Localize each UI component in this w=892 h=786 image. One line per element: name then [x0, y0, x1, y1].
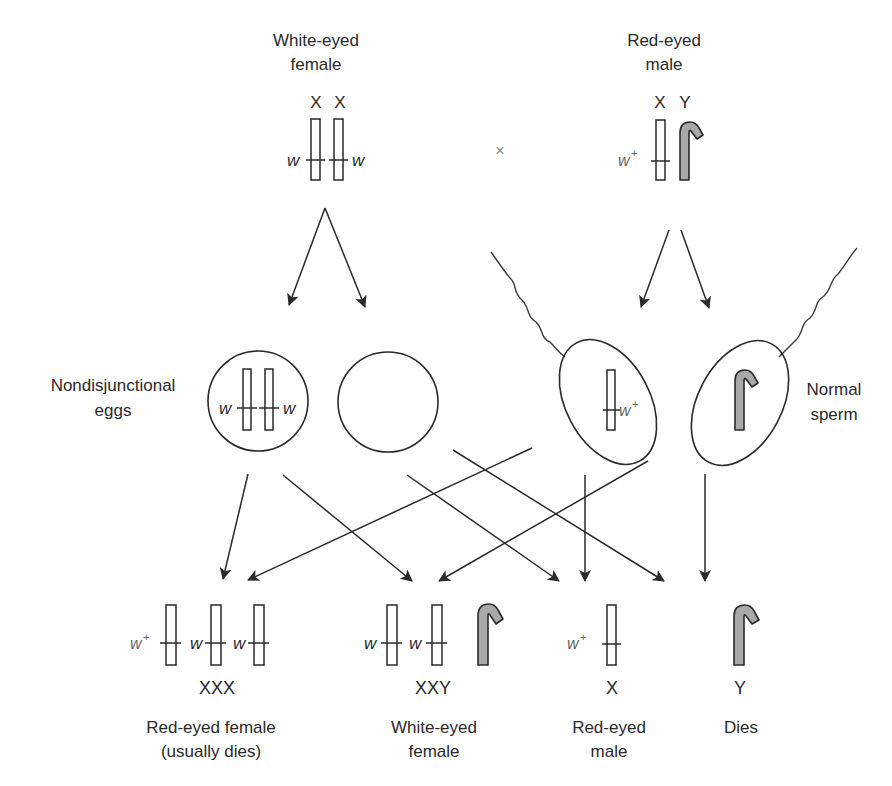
- sperm-allele-base: w: [619, 402, 632, 419]
- sperm-label: Normal sperm: [807, 380, 862, 424]
- karyotype-label: X: [606, 678, 618, 698]
- male-label-line1: Red-eyed: [627, 31, 701, 50]
- egg-allele-1: w: [219, 399, 233, 418]
- male-x-label: X: [654, 93, 665, 112]
- phenotype-line1: Red-eyed female: [146, 718, 275, 737]
- phenotype-line1: Red-eyed: [572, 718, 646, 737]
- meiosis-arrows: [289, 208, 709, 308]
- phenotype-line1: White-eyed: [391, 718, 477, 737]
- phenotype-line2: female: [408, 742, 459, 761]
- karyotype-label: XXY: [415, 678, 451, 698]
- x-chromosome-icon: [602, 605, 621, 665]
- y-chromosome-icon: [478, 604, 503, 665]
- y-chromosome-icon: [734, 605, 759, 665]
- offspring-allele: w: [190, 634, 204, 653]
- offspring-allele: w: [364, 634, 378, 653]
- offspring-x: w + X Red-eyed male: [567, 605, 646, 761]
- male-allele-base: w: [618, 152, 631, 169]
- x-chromosome-icon: [160, 605, 181, 665]
- x-chromosome-icon: [259, 369, 279, 430]
- egg-allele-2: w: [283, 399, 297, 418]
- karyotype-label: Y: [734, 678, 746, 698]
- x-chromosome-icon: [426, 605, 447, 665]
- offspring-allele-sup: +: [580, 631, 586, 643]
- offspring-allele-sup: +: [143, 631, 149, 643]
- eggs-label: Nondisjunctional eggs: [51, 376, 176, 420]
- offspring-allele: w: [409, 634, 423, 653]
- flagellum: [779, 248, 857, 357]
- eggs-label-line1: Nondisjunctional: [51, 376, 176, 395]
- nondisjunctional-egg-empty: [338, 352, 438, 452]
- female-allele-1: w: [287, 151, 301, 170]
- female-label-line1: White-eyed: [273, 31, 359, 50]
- sperm-allele-sup: +: [632, 398, 638, 410]
- y-chromosome-icon: [735, 370, 758, 430]
- x-chromosome-icon: [329, 119, 348, 180]
- x-chromosome-icon: [603, 370, 620, 430]
- x-chromosome-icon: [248, 605, 269, 665]
- nondisjunctional-egg-xx: w w: [208, 351, 308, 451]
- offspring-allele: w: [130, 635, 143, 652]
- diagram-canvas: White-eyed female X X w w × Red-eyed mal…: [0, 0, 892, 786]
- eggs-label-line2: eggs: [95, 401, 132, 420]
- offspring-allele: w: [567, 635, 580, 652]
- phenotype-line2: male: [591, 742, 628, 761]
- phenotype-line2: (usually dies): [161, 742, 261, 761]
- sperm-label-line2: sperm: [810, 405, 857, 424]
- sperm-label-line1: Normal: [807, 380, 862, 399]
- female-allele-2: w: [352, 151, 366, 170]
- cross-symbol: ×: [495, 142, 504, 159]
- offspring-xxy: w w XXY White-eyed female: [364, 604, 503, 761]
- female-x-label-2: X: [334, 93, 345, 112]
- offspring-y: Y Dies: [724, 605, 759, 737]
- offspring-allele: w: [233, 634, 247, 653]
- fertilization-arrows: [223, 448, 705, 581]
- female-label-line2: female: [290, 55, 341, 74]
- karyotype-label: XXX: [199, 678, 235, 698]
- x-chromosome-icon: [205, 605, 226, 665]
- male-label-line2: male: [646, 55, 683, 74]
- flagellum: [491, 252, 565, 357]
- x-chromosome-icon: [381, 605, 402, 665]
- parent-female: White-eyed female X X w w: [273, 31, 366, 180]
- offspring-xxx: w + w w XXX Red-eyed female (usually die…: [130, 605, 276, 761]
- y-chromosome-icon: [680, 122, 703, 180]
- male-y-label: Y: [679, 93, 690, 112]
- nondisjunction-diagram: White-eyed female X X w w × Red-eyed mal…: [0, 0, 892, 786]
- phenotype-line1: Dies: [724, 718, 758, 737]
- male-allele-sup: +: [631, 147, 637, 159]
- x-chromosome-icon: [651, 120, 670, 180]
- parent-male: Red-eyed male X Y w +: [618, 31, 703, 180]
- female-x-label-1: X: [310, 93, 321, 112]
- x-chromosome-icon: [306, 119, 325, 180]
- x-chromosome-icon: [237, 369, 257, 430]
